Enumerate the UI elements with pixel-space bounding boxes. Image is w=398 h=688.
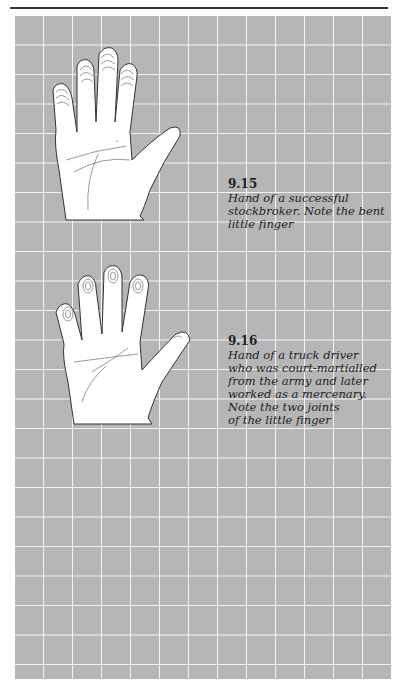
hand-icon (44, 40, 204, 230)
figure-number: 9.16 (228, 335, 388, 348)
caption-line: little finger (228, 218, 388, 231)
header-rule (10, 7, 388, 9)
figure-number: 9.15 (228, 178, 388, 191)
figure-9-15-hand-illustration (44, 40, 204, 230)
figure-9-16-caption: 9.16 Hand of a truck driver who was cour… (228, 335, 388, 427)
hand-icon (52, 262, 212, 432)
running-head (0, 0, 398, 4)
figure-9-15-caption: 9.15 Hand of a successful stockbroker. N… (228, 178, 388, 231)
caption-line: of the little finger (228, 414, 388, 427)
figure-9-16-hand-illustration (52, 262, 212, 432)
